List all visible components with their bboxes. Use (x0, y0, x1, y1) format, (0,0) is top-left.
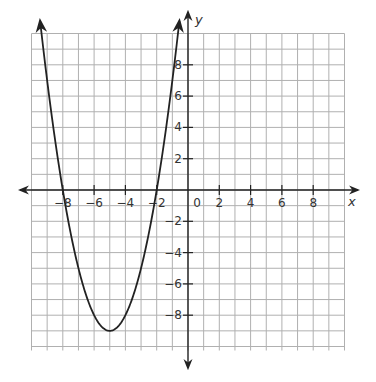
x-tick-label: 2 (215, 196, 223, 210)
x-tick-label: 6 (278, 196, 286, 210)
x-axis-label: x (347, 194, 356, 209)
y-tick-label: 6 (174, 89, 182, 103)
x-tick-label: 0 (193, 196, 201, 210)
y-tick-label: 4 (174, 120, 182, 134)
x-tick-label: −4 (117, 196, 135, 210)
y-axis-label: y (194, 12, 203, 27)
y-tick-label: −8 (164, 308, 182, 322)
x-tick-label: −8 (54, 196, 72, 210)
x-tick-label: 4 (247, 196, 255, 210)
y-tick-label: 2 (174, 152, 182, 166)
y-tick-label: −6 (164, 277, 182, 291)
x-tick-label: 8 (309, 196, 317, 210)
coordinate-plane: −8−6−4−2024688642−2−4−6−8 x y (0, 0, 376, 382)
x-tick-label: −2 (148, 196, 166, 210)
x-tick-label: −6 (85, 196, 103, 210)
y-tick-label: −4 (164, 246, 182, 260)
y-tick-label: −2 (164, 214, 182, 228)
